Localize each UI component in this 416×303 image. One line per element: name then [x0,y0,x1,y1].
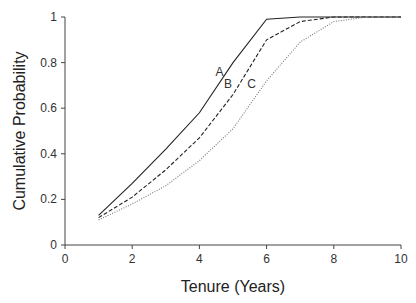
x-tick-label: 4 [196,252,203,266]
cumulative-probability-chart: 024681000.20.40.60.81 ABC Tenure (Years)… [0,0,416,303]
x-axis-label: Tenure (Years) [181,278,285,295]
annotations: ABC [216,65,257,90]
y-tick-label: 1 [50,10,57,24]
curve-label-c: C [247,77,256,91]
curve-c [99,17,401,220]
x-tick-label: 8 [330,252,337,266]
y-axis-label: Cumulative Probability [11,51,28,210]
curve-b [99,17,401,218]
y-tick-label: 0.8 [40,56,57,70]
y-tick-label: 0.2 [40,192,57,206]
x-tick-label: 2 [129,252,136,266]
curves [99,17,401,220]
x-tick-label: 10 [394,252,408,266]
curve-label-a: A [216,65,224,79]
x-tick-label: 6 [263,252,270,266]
axes: 024681000.20.40.60.81 [40,10,408,266]
curve-a [99,17,401,215]
y-tick-label: 0.6 [40,101,57,115]
curve-label-b: B [224,77,232,91]
y-tick-label: 0 [50,238,57,252]
y-tick-label: 0.4 [40,147,57,161]
x-tick-label: 0 [62,252,69,266]
